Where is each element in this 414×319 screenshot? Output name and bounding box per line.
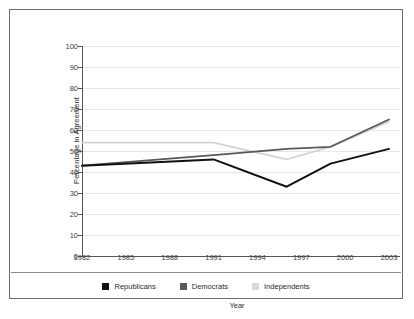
y-axis-tick-mark <box>78 193 82 194</box>
y-axis-tick-label: 10 <box>38 231 78 240</box>
y-axis-tick-label: 40 <box>38 168 78 177</box>
legend-swatch-icon <box>180 283 187 290</box>
y-axis-tick-mark <box>78 151 82 152</box>
x-axis-tick-label: 1997 <box>293 253 310 262</box>
x-axis-tick-label: 1991 <box>205 253 222 262</box>
x-axis-tick-label: 1988 <box>161 253 178 262</box>
legend-label: Independents <box>264 282 309 291</box>
chart-frame: Percentage in Agreement Year 01020304050… <box>9 9 403 299</box>
series-line-republicans <box>82 149 389 187</box>
legend-label: Republicans <box>114 282 155 291</box>
y-axis-tick-mark <box>78 235 82 236</box>
y-axis-tick-label: 90 <box>38 63 78 72</box>
y-axis-tick-mark <box>78 88 82 89</box>
series-lines <box>74 37 400 265</box>
y-axis-tick-label: 80 <box>38 84 78 93</box>
legend-item-independents: Independents <box>252 282 309 291</box>
legend-item-democrats: Democrats <box>180 282 228 291</box>
y-axis-tick-label: 50 <box>38 147 78 156</box>
legend-divider <box>11 272 401 273</box>
y-axis-tick-mark <box>78 130 82 131</box>
x-axis-tick-label: 1982 <box>74 253 91 262</box>
legend-swatch-icon <box>252 283 259 290</box>
y-axis-tick-mark <box>78 172 82 173</box>
x-axis-label: Year <box>74 301 400 310</box>
legend-swatch-icon <box>102 283 109 290</box>
y-axis-tick-mark <box>78 214 82 215</box>
y-axis-tick-mark <box>78 109 82 110</box>
y-axis-tick-label: 100 <box>38 42 78 51</box>
chart-legend: RepublicansDemocratsIndependents <box>10 282 402 291</box>
x-axis-tick-label: 1994 <box>249 253 266 262</box>
y-axis-tick-mark <box>78 46 82 47</box>
legend-label: Democrats <box>192 282 228 291</box>
y-axis-tick-mark <box>78 67 82 68</box>
y-axis-tick-label: 70 <box>38 105 78 114</box>
x-axis-tick-label: 2003 <box>381 253 398 262</box>
y-axis-tick-label: 0 <box>38 252 78 261</box>
x-axis-tick-label: 2000 <box>337 253 354 262</box>
x-axis-tick-label: 1985 <box>118 253 135 262</box>
y-axis-tick-label: 30 <box>38 189 78 198</box>
legend-item-republicans: Republicans <box>102 282 155 291</box>
plot-area: Percentage in Agreement Year 01020304050… <box>74 37 400 265</box>
y-axis-tick-label: 60 <box>38 126 78 135</box>
y-axis-tick-label: 20 <box>38 210 78 219</box>
